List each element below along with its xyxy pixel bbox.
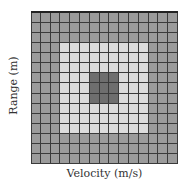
outer-cell	[90, 23, 100, 33]
inner-cell	[119, 94, 129, 104]
inner-cell	[119, 124, 129, 134]
outer-cell	[158, 114, 168, 124]
inner-cell	[90, 43, 100, 53]
outer-cell	[168, 43, 178, 53]
inner-cell	[139, 124, 149, 134]
center-cell	[90, 94, 100, 104]
outer-cell	[158, 104, 168, 114]
outer-cell	[31, 13, 41, 23]
inner-cell	[90, 124, 100, 134]
outer-cell	[119, 13, 129, 23]
outer-cell	[41, 83, 51, 93]
outer-cell	[31, 114, 41, 124]
outer-cell	[60, 33, 70, 43]
outer-cell	[149, 13, 159, 23]
outer-cell	[31, 83, 41, 93]
inner-cell	[80, 104, 90, 114]
outer-cell	[60, 13, 70, 23]
outer-cell	[70, 13, 80, 23]
outer-cell	[149, 73, 159, 83]
inner-cell	[80, 73, 90, 83]
inner-cell	[90, 114, 100, 124]
center-cell	[100, 73, 110, 83]
inner-cell	[129, 73, 139, 83]
inner-cell	[139, 114, 149, 124]
outer-cell	[158, 134, 168, 144]
outer-cell	[149, 43, 159, 53]
inner-cell	[60, 53, 70, 63]
outer-cell	[51, 43, 61, 53]
inner-cell	[80, 94, 90, 104]
outer-cell	[31, 43, 41, 53]
inner-cell	[70, 63, 80, 73]
outer-cell	[60, 154, 70, 164]
outer-cell	[31, 154, 41, 164]
inner-cell	[100, 114, 110, 124]
inner-cell	[129, 43, 139, 53]
outer-cell	[41, 13, 51, 23]
outer-cell	[149, 144, 159, 154]
inner-cell	[139, 43, 149, 53]
inner-cell	[60, 114, 70, 124]
outer-cell	[109, 23, 119, 33]
outer-cell	[149, 53, 159, 63]
outer-cell	[41, 53, 51, 63]
center-cell	[100, 94, 110, 104]
inner-cell	[60, 104, 70, 114]
inner-cell	[129, 124, 139, 134]
outer-cell	[149, 124, 159, 134]
inner-cell	[90, 53, 100, 63]
outer-cell	[158, 13, 168, 23]
inner-cell	[80, 124, 90, 134]
outer-cell	[51, 73, 61, 83]
outer-cell	[100, 134, 110, 144]
outer-cell	[168, 83, 178, 93]
inner-cell	[129, 114, 139, 124]
outer-cell	[149, 83, 159, 93]
outer-cell	[149, 154, 159, 164]
outer-cell	[168, 114, 178, 124]
outer-cell	[129, 33, 139, 43]
inner-cell	[60, 83, 70, 93]
outer-cell	[51, 33, 61, 43]
inner-cell	[100, 104, 110, 114]
outer-cell	[139, 144, 149, 154]
outer-cell	[119, 134, 129, 144]
outer-cell	[41, 63, 51, 73]
outer-cell	[149, 94, 159, 104]
outer-cell	[80, 23, 90, 33]
outer-cell	[109, 154, 119, 164]
outer-cell	[139, 134, 149, 144]
center-cell	[109, 73, 119, 83]
outer-cell	[70, 154, 80, 164]
inner-cell	[100, 53, 110, 63]
outer-cell	[80, 33, 90, 43]
inner-cell	[60, 94, 70, 104]
outer-cell	[51, 154, 61, 164]
outer-cell	[100, 23, 110, 33]
inner-cell	[139, 94, 149, 104]
outer-cell	[109, 33, 119, 43]
inner-cell	[70, 83, 80, 93]
inner-cell	[109, 124, 119, 134]
inner-cell	[119, 53, 129, 63]
outer-cell	[168, 104, 178, 114]
inner-cell	[70, 53, 80, 63]
outer-cell	[168, 124, 178, 134]
outer-cell	[80, 134, 90, 144]
inner-cell	[70, 124, 80, 134]
outer-cell	[31, 63, 41, 73]
inner-cell	[119, 83, 129, 93]
outer-cell	[90, 13, 100, 23]
outer-cell	[158, 23, 168, 33]
inner-cell	[100, 124, 110, 134]
outer-cell	[168, 63, 178, 73]
inner-cell	[60, 73, 70, 83]
outer-cell	[149, 23, 159, 33]
outer-cell	[51, 104, 61, 114]
inner-cell	[119, 63, 129, 73]
outer-cell	[41, 94, 51, 104]
center-cell	[100, 83, 110, 93]
outer-cell	[41, 33, 51, 43]
outer-cell	[139, 23, 149, 33]
